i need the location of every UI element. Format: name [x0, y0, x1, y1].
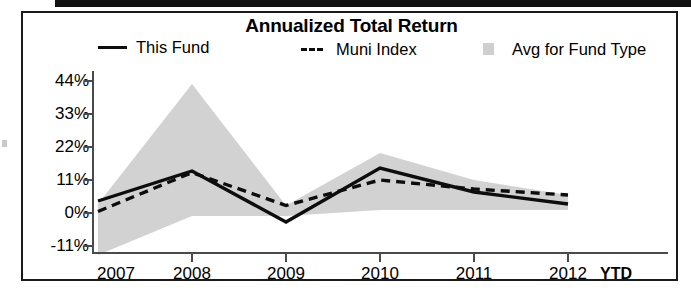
legend-label-muni-index: Muni Index	[336, 41, 417, 58]
avg-fund-type-band	[98, 84, 568, 255]
scan-artifact-speck	[2, 140, 7, 147]
x-tick-label: 2008	[173, 264, 211, 284]
page-top-gap	[21, 7, 691, 9]
legend-label-avg-fund-type: Avg for Fund Type	[512, 41, 646, 58]
plot-area	[23, 61, 680, 279]
page-top-rule	[55, 0, 691, 7]
legend-item-avg-fund-type: Avg for Fund Type	[471, 41, 646, 58]
solid-line-swatch-icon	[95, 46, 129, 49]
x-tick-label: 2010	[361, 264, 399, 284]
x-tick-label: 2009	[267, 264, 305, 284]
chart-legend: This Fund Muni Index Avg for Fund Type	[23, 37, 680, 61]
chart-title: Annualized Total Return	[23, 15, 680, 37]
chart-frame: Annualized Total Return This Fund Muni I…	[21, 11, 678, 281]
x-axis-ytd-note: YTD	[600, 265, 632, 283]
legend-item-muni-index: Muni Index	[295, 41, 417, 58]
x-axis-tick-labels: 200720082009201020112012YTD	[23, 261, 680, 287]
x-tick-label: 2011	[456, 264, 493, 284]
chart-canvas	[23, 61, 680, 279]
area-fill-swatch-icon	[471, 43, 505, 55]
x-tick-label: 2012	[549, 264, 587, 284]
legend-item-this-fund: This Fund	[95, 39, 209, 56]
x-tick-label: 2007	[97, 264, 135, 284]
dashed-line-swatch-icon	[295, 48, 329, 51]
scanned-page: Annualized Total Return This Fund Muni I…	[0, 0, 691, 292]
legend-label-this-fund: This Fund	[136, 39, 209, 56]
